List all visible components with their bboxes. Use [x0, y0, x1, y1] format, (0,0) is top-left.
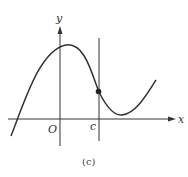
x-axis-arrow-icon	[168, 117, 176, 122]
function-graph: x y O c (c)	[0, 0, 188, 177]
y-axis-arrow-icon	[58, 26, 63, 34]
y-axis-label: y	[55, 12, 63, 25]
function-curve	[11, 45, 156, 136]
c-label: c	[90, 120, 96, 133]
origin-label: O	[48, 123, 57, 136]
x-axis-label: x	[178, 113, 185, 126]
intersection-point	[96, 89, 102, 95]
figure-caption: (c)	[82, 156, 96, 167]
